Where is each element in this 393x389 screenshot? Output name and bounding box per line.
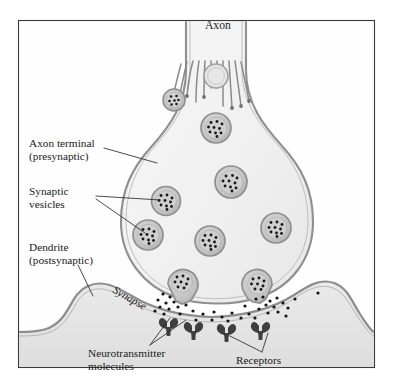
synaptic-vesicles-label-line1: Synaptic (29, 185, 69, 197)
neurotransmitter-molecule (164, 301, 167, 304)
neurotransmitter-molecule (247, 312, 250, 315)
neurotransmitter-molecule (264, 303, 267, 306)
axon-terminal-label-line1: Axon terminal (29, 137, 95, 149)
neurotransmitter-molecule (212, 310, 215, 313)
vesicle (204, 64, 228, 88)
neurotransmitter-molecule (167, 307, 170, 310)
receptors-label: Receptors (236, 354, 281, 366)
axon-terminal-label-line2: (presynaptic) (29, 150, 89, 163)
microtubule-end-icon (247, 99, 251, 103)
dendrite-label-line1: Dendrite (29, 241, 69, 253)
neurotransmitter-molecule (243, 304, 246, 307)
axon-label: Axon (205, 19, 231, 32)
vesicle (133, 220, 163, 250)
neurotransmitter-molecule (276, 310, 279, 313)
neurotransmitter-molecule (230, 311, 233, 314)
neurotransmitter-molecule (153, 309, 156, 312)
neurotransmitter-molecule (178, 312, 181, 315)
vesicle (261, 213, 291, 243)
neurotransmitter-molecule (272, 305, 275, 308)
neurotransmitter-molecule (156, 298, 159, 301)
neurotransmitter-molecule (220, 315, 223, 318)
neurotransmitter-molecule (261, 295, 264, 298)
vesicle (163, 89, 185, 111)
neurotransmitter-molecule (226, 319, 229, 322)
neurotransmitter-molecule (284, 314, 287, 317)
neurotransmitter-molecule (168, 295, 171, 298)
neurotransmitter-molecule (158, 305, 161, 308)
microtubule-end-icon (185, 94, 189, 98)
neurotransmitter-molecule (281, 301, 284, 304)
neurotransmitter-molecule (210, 318, 213, 321)
neurotransmitter-molecule (254, 297, 257, 300)
neurotransmitter-molecule (194, 318, 197, 321)
neurotransmitter-molecule (266, 311, 269, 314)
neurotransmitter-molecule (184, 303, 187, 306)
neurotransmitter-label-line2: molecules (88, 360, 134, 372)
neurotransmitter-molecule (268, 299, 271, 302)
neurotransmitter-molecule (239, 316, 242, 319)
neurotransmitter-label-line1: Neurotransmitter (88, 347, 165, 359)
microtubule-end-icon (230, 106, 234, 110)
neurotransmitter-molecule (253, 316, 256, 319)
vesicle (152, 187, 181, 216)
vesicle (195, 226, 225, 256)
neurotransmitter-molecule (286, 306, 289, 309)
neurotransmitter-molecule (161, 292, 164, 295)
microtubule-end-icon (202, 95, 206, 99)
neurotransmitter-molecule (275, 296, 278, 299)
neurotransmitter-molecule (162, 312, 165, 315)
microtubule-end-icon (239, 104, 243, 108)
neurotransmitter-molecule (293, 297, 296, 300)
neurotransmitter-molecule (257, 307, 260, 310)
synapse-diagram-canvas: Axon Axon terminal (presynaptic) Synapti… (0, 0, 393, 389)
dendrite-label-line2: (postsynaptic) (29, 254, 93, 267)
vesicle (201, 113, 231, 143)
neurotransmitter-molecule (316, 291, 319, 294)
neurotransmitter-molecule (201, 312, 204, 315)
synaptic-vesicles-label-line2: vesicles (29, 198, 65, 210)
synapse-diagram-figure: Axon Axon terminal (presynaptic) Synapti… (0, 0, 393, 389)
neurotransmitter-molecule (172, 300, 175, 303)
neurotransmitter-molecule (176, 305, 179, 308)
vesicle (215, 166, 247, 198)
neurotransmitter-molecule (191, 309, 194, 312)
